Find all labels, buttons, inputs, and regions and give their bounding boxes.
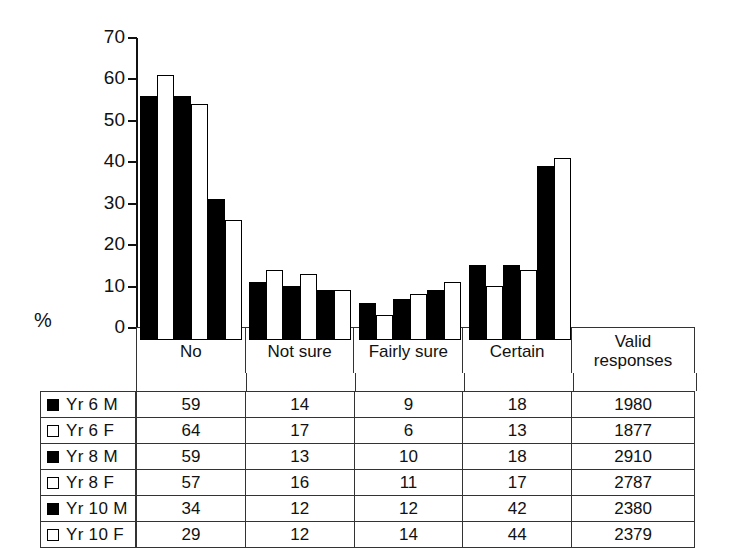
legend-swatch-icon [47, 425, 59, 437]
legend-swatch-icon [47, 503, 59, 515]
legend-table: Yr 6 MYr 6 FYr 8 MYr 8 FYr 10 MYr 10 F [40, 391, 136, 548]
legend-swatch-icon [47, 477, 59, 489]
bar [191, 104, 208, 340]
cell-certain: 13 [463, 418, 572, 444]
y-axis-tick-mark [128, 37, 137, 39]
bar [208, 199, 225, 340]
cell-valid-responses: 2379 [572, 522, 695, 548]
bar-group-certain [465, 50, 574, 340]
cell-no: 29 [137, 522, 246, 548]
cell-not-sure: 14 [245, 392, 354, 418]
cell-certain: 17 [463, 470, 572, 496]
cell-not-sure: 12 [245, 496, 354, 522]
bar [469, 265, 486, 340]
table-gap-band [136, 373, 697, 391]
y-axis-tick-label: 60 [79, 68, 125, 87]
y-axis-tick-label: 10 [79, 276, 125, 295]
bar [537, 166, 554, 340]
table-row: 341212422380 [137, 496, 695, 522]
bar [225, 220, 242, 340]
legend-series-label: Yr 8 F [66, 473, 114, 492]
cell-valid-responses: 1980 [572, 392, 695, 418]
legend-cell: Yr 10 M [41, 496, 136, 522]
legend-cell: Yr 8 M [41, 444, 136, 470]
bar [157, 75, 174, 340]
cell-no: 59 [137, 392, 246, 418]
bar [174, 96, 191, 340]
y-axis-tick-label: 20 [79, 234, 125, 253]
cell-not-sure: 16 [245, 470, 354, 496]
legend-cell: Yr 8 F [41, 470, 136, 496]
legend-swatch-icon [47, 451, 59, 463]
bar [520, 270, 537, 340]
legend-row: Yr 10 M [41, 496, 136, 522]
table-row: 591310182910 [137, 444, 695, 470]
cell-certain: 44 [463, 522, 572, 548]
bar [300, 274, 317, 340]
cell-valid-responses: 2380 [572, 496, 695, 522]
cell-certain: 42 [463, 496, 572, 522]
legend-cell: Yr 6 F [41, 418, 136, 444]
cell-valid-responses: 1877 [572, 418, 695, 444]
cell-no: 59 [137, 444, 246, 470]
legend-row: Yr 8 F [41, 470, 136, 496]
data-values-table: 5914918198064176131877591310182910571611… [136, 391, 695, 548]
legend-series-label: Yr 10 M [66, 499, 128, 518]
bar [359, 303, 376, 340]
cell-fairly-sure: 14 [354, 522, 463, 548]
cell-not-sure: 17 [245, 418, 354, 444]
legend-row: Yr 6 M [41, 392, 136, 418]
table-column-divider [355, 373, 356, 391]
header-valid-responses: Valid responses [572, 328, 695, 375]
cell-fairly-sure: 11 [354, 470, 463, 496]
bar-group-fairly-sure [355, 50, 464, 340]
cell-no: 57 [137, 470, 246, 496]
legend-swatch-icon [47, 529, 59, 541]
bar [410, 294, 427, 340]
table-column-divider [246, 373, 247, 391]
legend-row: Yr 10 F [41, 522, 136, 548]
legend-series-label: Yr 6 M [66, 395, 118, 414]
bar-group-no [136, 50, 245, 340]
cell-certain: 18 [463, 392, 572, 418]
legend-swatch-icon [47, 399, 59, 411]
cell-no: 64 [137, 418, 246, 444]
bar [444, 282, 461, 340]
bar [486, 286, 503, 340]
bar [317, 290, 334, 340]
table-row: 59149181980 [137, 392, 695, 418]
y-axis-unit-label: % [34, 310, 52, 330]
legend-series-label: Yr 8 M [66, 447, 118, 466]
cell-fairly-sure: 12 [354, 496, 463, 522]
cell-certain: 18 [463, 444, 572, 470]
bar [376, 315, 393, 340]
cell-fairly-sure: 9 [354, 392, 463, 418]
bar [249, 282, 266, 340]
y-axis-tick-label: 70 [79, 27, 125, 46]
y-axis-tick-label: 30 [79, 193, 125, 212]
y-axis-tick-label: 50 [79, 110, 125, 129]
cell-no: 34 [137, 496, 246, 522]
legend-series-label: Yr 6 F [66, 421, 114, 440]
legend-row: Yr 6 F [41, 418, 136, 444]
cell-fairly-sure: 6 [354, 418, 463, 444]
cell-not-sure: 13 [245, 444, 354, 470]
table-column-divider [573, 373, 574, 391]
bar-group-not-sure [245, 50, 354, 340]
cell-not-sure: 12 [245, 522, 354, 548]
bar [140, 96, 157, 340]
y-axis-tick-label: 0 [79, 317, 125, 336]
bar [427, 290, 444, 340]
table-column-divider [464, 373, 465, 391]
legend-cell: Yr 6 M [41, 392, 136, 418]
header-valid-line1: Valid [572, 332, 694, 351]
bar [266, 270, 283, 340]
table-row: 291214442379 [137, 522, 695, 548]
legend-row: Yr 8 M [41, 444, 136, 470]
cell-valid-responses: 2910 [572, 444, 695, 470]
cell-fairly-sure: 10 [354, 444, 463, 470]
bar [283, 286, 300, 340]
bar [554, 158, 571, 340]
chart-plot-area: 706050403020100 % [0, 0, 733, 340]
bar [334, 290, 351, 340]
